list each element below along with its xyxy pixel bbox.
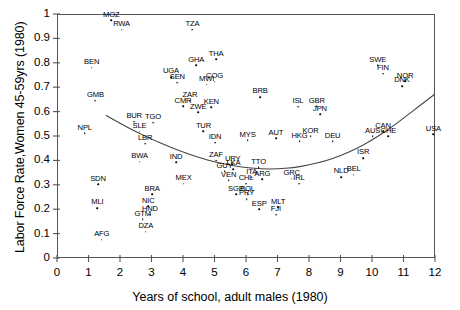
data-point-marker bbox=[97, 207, 99, 209]
data-point-marker bbox=[259, 96, 261, 98]
data-point-marker bbox=[433, 133, 435, 135]
data-point-label: MEX bbox=[176, 174, 192, 182]
data-point-label: SLE bbox=[133, 123, 147, 131]
data-point-label: ZAF bbox=[209, 152, 223, 160]
data-point-marker bbox=[298, 183, 300, 185]
data-point-marker bbox=[310, 135, 312, 137]
data-point-label: CHE bbox=[381, 127, 397, 135]
data-point-label: ISR bbox=[357, 149, 369, 157]
data-point-marker bbox=[353, 174, 355, 176]
data-point-marker bbox=[275, 214, 277, 216]
data-point-marker bbox=[228, 180, 230, 182]
data-point-label: RWA bbox=[113, 21, 130, 29]
data-point-marker bbox=[177, 82, 179, 84]
data-point-label: BUR bbox=[126, 113, 142, 121]
data-point-marker bbox=[246, 198, 248, 200]
data-point-label: GMB bbox=[87, 92, 104, 100]
data-point-marker bbox=[214, 142, 216, 144]
data-point-label: JPN bbox=[313, 105, 327, 113]
data-point-label: AFG bbox=[94, 231, 109, 239]
data-point-label: BEN bbox=[84, 59, 99, 67]
data-point-label: SDN bbox=[90, 175, 106, 183]
data-point-label: PRY bbox=[239, 190, 254, 198]
data-point-marker bbox=[215, 58, 217, 60]
data-point-label: SWE bbox=[369, 56, 386, 64]
data-point-marker bbox=[372, 135, 374, 137]
data-point-marker bbox=[144, 143, 146, 145]
data-point-marker bbox=[388, 135, 390, 137]
data-point-label: GTM bbox=[134, 210, 150, 218]
data-point-marker bbox=[299, 141, 301, 143]
data-point-label: DZA bbox=[138, 223, 153, 231]
data-point-label: ARG bbox=[254, 170, 270, 178]
data-point-label: ESP bbox=[252, 200, 267, 208]
data-point-label: FIN bbox=[377, 65, 389, 73]
data-point-marker bbox=[95, 100, 97, 102]
data-point-label: TUR bbox=[196, 122, 211, 130]
data-point-marker bbox=[340, 176, 342, 178]
y-axis-title: Labor Force Rate,Women 45-59yrs (1980) bbox=[13, 22, 27, 254]
data-point-label: HKG bbox=[292, 132, 308, 140]
data-point-label: ZWE bbox=[190, 103, 206, 111]
data-point-label: DEU bbox=[325, 132, 341, 140]
data-point-label: BRA bbox=[145, 185, 160, 193]
data-point-label: MOZ bbox=[103, 11, 119, 19]
data-point-marker bbox=[401, 85, 403, 87]
data-point-marker bbox=[382, 73, 384, 75]
data-point-label: MWI bbox=[199, 76, 214, 84]
data-point-marker bbox=[139, 161, 141, 163]
data-point-marker bbox=[297, 106, 299, 108]
data-point-label: LBR bbox=[138, 135, 152, 143]
data-point-label: BRB bbox=[253, 88, 268, 96]
data-point-marker bbox=[235, 193, 237, 195]
data-point-marker bbox=[182, 105, 184, 107]
data-point-label: AUS bbox=[365, 127, 380, 135]
data-point-marker bbox=[206, 84, 208, 86]
data-point-marker bbox=[197, 111, 199, 113]
data-point-marker bbox=[110, 19, 112, 21]
data-point-marker bbox=[142, 219, 144, 221]
data-point-marker bbox=[145, 231, 147, 233]
data-point-label: NPL bbox=[78, 124, 92, 132]
data-point-label: FJI bbox=[271, 205, 281, 213]
data-point-marker bbox=[121, 29, 123, 31]
data-point-marker bbox=[291, 178, 293, 180]
data-point-marker bbox=[97, 184, 99, 186]
data-point-label: BWA bbox=[131, 153, 148, 161]
data-point-label: CHL bbox=[239, 174, 254, 182]
data-point-marker bbox=[101, 239, 103, 241]
data-point-label: TZA bbox=[185, 21, 199, 29]
data-point-marker bbox=[152, 122, 154, 124]
data-point-label: SEN bbox=[170, 74, 185, 82]
data-point-label: TGO bbox=[145, 113, 161, 121]
data-point-marker bbox=[362, 157, 364, 159]
data-point-label: MLI bbox=[91, 199, 103, 207]
data-point-marker bbox=[192, 29, 194, 31]
data-point-label: ISL bbox=[292, 98, 303, 106]
data-point-marker bbox=[195, 64, 197, 66]
data-point-label: DNK bbox=[394, 77, 410, 85]
data-point-label: IND bbox=[170, 153, 183, 161]
data-point-marker bbox=[151, 193, 153, 195]
data-point-marker bbox=[262, 179, 264, 181]
data-point-marker bbox=[275, 138, 277, 140]
data-point-label: VEN bbox=[221, 171, 236, 179]
data-point-label: IRL bbox=[293, 174, 304, 182]
data-point-marker bbox=[258, 166, 260, 168]
x-axis-title: Years of school, adult males (1980) bbox=[0, 290, 460, 304]
data-point-marker bbox=[332, 141, 334, 143]
scatter-chart-figure: 00.10.20.30.40.50.60.70.80.91 0123456789… bbox=[0, 0, 460, 310]
data-point-label: USA bbox=[426, 125, 441, 133]
data-point-label: MYS bbox=[240, 131, 256, 139]
data-point-marker bbox=[203, 130, 205, 132]
data-point-label: AUT bbox=[269, 129, 284, 137]
y-tick-label: 1 bbox=[9, 7, 50, 19]
data-point-marker bbox=[247, 140, 249, 142]
data-point-marker bbox=[183, 183, 185, 185]
data-point-marker bbox=[139, 131, 141, 133]
data-point-label: GHA bbox=[188, 56, 204, 64]
data-point-marker bbox=[91, 67, 93, 69]
data-point-label: GUY bbox=[217, 162, 233, 170]
data-point-marker bbox=[84, 132, 86, 134]
x-tick-label: 12 bbox=[415, 266, 455, 278]
